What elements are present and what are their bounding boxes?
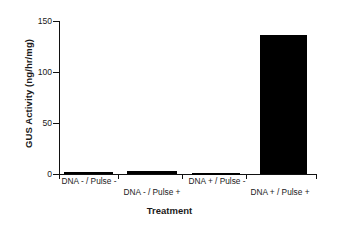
y-tick-label-150: 150 bbox=[12, 17, 52, 26]
y-tick-label-100: 100 bbox=[12, 68, 52, 77]
x-category-label-2: DNA + / Pulse - bbox=[177, 177, 257, 186]
y-tick-label-50: 50 bbox=[12, 119, 52, 128]
x-category-label-3: DNA + / Pulse + bbox=[240, 188, 320, 197]
x-axis-title: Treatment bbox=[0, 205, 339, 216]
x-tick-mark-4 bbox=[316, 175, 317, 179]
bar-dna-minus-pulse-minus bbox=[64, 172, 113, 174]
chart-figure: GUS Activity (ng/hr/mg) 150 100 50 0 DNA… bbox=[0, 0, 339, 228]
y-axis-tick-labels: 150 100 50 0 bbox=[8, 0, 52, 228]
bar-dna-minus-pulse-plus bbox=[127, 171, 177, 174]
y-tick-label-0: 0 bbox=[12, 170, 52, 179]
bar-dna-plus-pulse-minus bbox=[192, 173, 240, 175]
x-category-label-1: DNA - / Pulse + bbox=[112, 188, 192, 197]
y-axis-line bbox=[59, 21, 60, 175]
bar-dna-plus-pulse-plus bbox=[260, 35, 307, 174]
x-category-label-0: DNA - / Pulse - bbox=[49, 177, 129, 186]
